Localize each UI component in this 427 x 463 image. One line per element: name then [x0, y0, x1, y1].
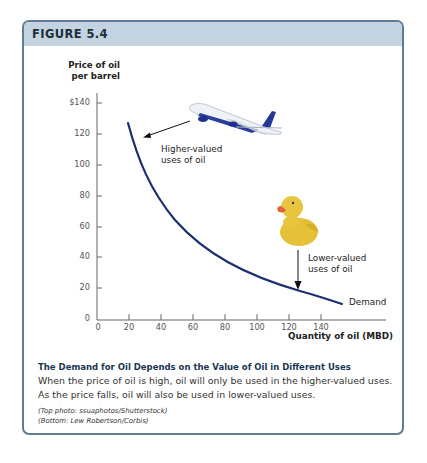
- y-axis-ticks: [97, 103, 102, 288]
- y-tick-label: 120: [60, 128, 90, 138]
- lower-valued-arrow: [295, 250, 302, 290]
- higher-valued-line1: Higher-valued: [161, 144, 222, 155]
- lower-valued-annotation: Lower-valued uses of oil: [308, 253, 366, 275]
- higher-valued-line2: uses of oil: [161, 155, 222, 166]
- x-axis-ticks: [129, 314, 321, 320]
- figure-panel: FIGURE 5.4: [22, 20, 404, 435]
- caption-body: When the price of oil is high, oil will …: [38, 374, 394, 401]
- x-axis-label: Quantity of oil (MBD): [288, 331, 393, 341]
- lower-valued-line2: uses of oil: [308, 264, 366, 275]
- caption-title: The Demand for Oil Depends on the Value …: [38, 361, 394, 374]
- y-axis-label-line1: Price of oil: [62, 60, 120, 71]
- y-tick-label: 20: [60, 282, 90, 292]
- x-tick-label: 100: [242, 322, 272, 332]
- credit-top: (Top photo: ssuaphotos/Shutterstock): [38, 406, 167, 416]
- rubber-duck-image: [277, 196, 318, 246]
- x-tick-label: 20: [114, 322, 144, 332]
- lower-valued-line1: Lower-valued: [308, 253, 366, 264]
- x-tick-label: 60: [178, 322, 208, 332]
- demand-curve-label: Demand: [349, 297, 386, 307]
- y-tick-label: 40: [60, 251, 90, 261]
- y-tick-label: 100: [60, 159, 90, 169]
- photo-credits: (Top photo: ssuaphotos/Shutterstock) (Bo…: [38, 406, 167, 426]
- y-axis-label: Price of oil per barrel: [62, 60, 120, 82]
- y-tick-label: 60: [60, 221, 90, 231]
- x-tick-label: 0: [83, 322, 113, 332]
- x-tick-label: 40: [146, 322, 176, 332]
- airplane-image: [190, 103, 282, 135]
- higher-valued-annotation: Higher-valued uses of oil: [161, 144, 222, 166]
- figure-caption: The Demand for Oil Depends on the Value …: [38, 361, 394, 401]
- y-axis-label-line2: per barrel: [62, 71, 120, 82]
- y-tick-label: 80: [60, 190, 90, 200]
- x-tick-label: 80: [210, 322, 240, 332]
- y-tick-label: $140: [60, 97, 90, 107]
- credit-bottom: (Bottom: Lew Robertson/Corbis): [38, 416, 167, 426]
- higher-valued-arrow: [143, 121, 190, 138]
